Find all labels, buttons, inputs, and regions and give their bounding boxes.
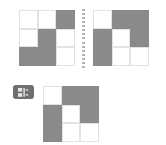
grid-cell — [43, 123, 62, 142]
diagram-canvas — [0, 0, 166, 145]
grid-cell — [112, 47, 131, 66]
divider-dot — [82, 21, 85, 23]
grid-cell — [19, 47, 38, 66]
divider-dot — [82, 50, 85, 52]
divider-dot — [82, 9, 85, 11]
divider-dot — [82, 25, 85, 27]
grid-cell — [19, 29, 38, 48]
grid-cell — [130, 47, 149, 66]
grid-cell — [38, 10, 57, 29]
divider-dot — [82, 58, 85, 60]
divider-dot — [82, 29, 85, 31]
divider-dot — [82, 33, 85, 35]
divider-dot — [82, 46, 85, 48]
grid-cell — [80, 105, 99, 124]
grid-cell — [112, 10, 131, 29]
grid-cell — [38, 29, 57, 48]
grid-cell — [130, 10, 149, 29]
grid-cell — [62, 105, 81, 124]
grid-cell — [130, 29, 149, 48]
input-grid-right — [93, 10, 149, 66]
divider-dot — [82, 17, 85, 19]
grid-cell — [93, 29, 112, 48]
grid-cell — [62, 123, 81, 142]
grid-cell — [93, 47, 112, 66]
divider-dot — [82, 37, 85, 39]
divider-dot — [82, 54, 85, 56]
grid-cell — [93, 10, 112, 29]
grid-cell — [56, 29, 75, 48]
grid-cell — [43, 86, 62, 105]
divider-dot — [82, 66, 85, 68]
grid-cell — [56, 10, 75, 29]
grid-cell — [62, 86, 81, 105]
divider-dot — [82, 13, 85, 15]
flip-horizontal-badge[interactable] — [13, 85, 34, 99]
dotted-divider — [82, 9, 85, 68]
divider-dot — [82, 62, 85, 64]
grid-cell — [112, 29, 131, 48]
grid-cell — [56, 47, 75, 66]
input-grid-left — [19, 10, 75, 66]
flip-horizontal-icon — [18, 88, 29, 97]
grid-cell — [38, 47, 57, 66]
grid-cell — [43, 105, 62, 124]
divider-dot — [82, 42, 85, 44]
output-grid-result — [43, 86, 99, 142]
grid-cell — [19, 10, 38, 29]
grid-cell — [80, 86, 99, 105]
grid-cell — [80, 123, 99, 142]
